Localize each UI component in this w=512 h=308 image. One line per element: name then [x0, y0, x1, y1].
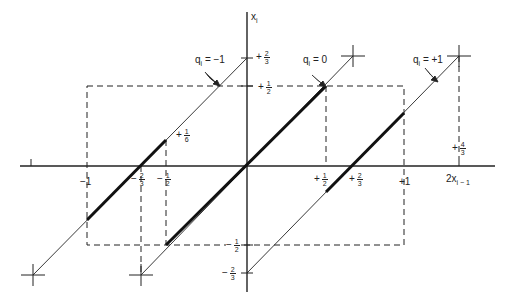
- x-tick-plus-4-3: +43: [452, 141, 466, 156]
- q-value: = 0: [310, 54, 327, 65]
- diagram-canvas: [0, 0, 512, 308]
- y-axis-label: xi: [251, 12, 258, 24]
- label-q-0: qi = 0: [303, 55, 327, 67]
- thick-segment-q-plus-1: [326, 113, 404, 192]
- y-tick-plus-2-3: +23: [256, 50, 270, 65]
- x-tick-plus-2-3: +23: [349, 172, 363, 187]
- thick-segment-q-minus-1: [87, 140, 166, 220]
- x-axis-label: 2xi − 1: [446, 174, 470, 186]
- x-tick-plus-1: +1: [399, 177, 410, 187]
- y-tick-plus-1-2: +12: [256, 80, 274, 95]
- y-tick-plus-1-6: +16: [176, 128, 190, 143]
- label-q-minus-1: qi = −1: [195, 55, 225, 67]
- x-axis-label-main: 2x: [446, 173, 457, 184]
- cross-marker: [447, 45, 471, 67]
- y-tick-minus-1-2: −12: [226, 238, 240, 253]
- label-q-plus-1: qi = +1: [413, 55, 443, 67]
- x-tick-plus-1-2: +12: [314, 172, 328, 187]
- y-axis-label-sub: i: [256, 17, 258, 24]
- x-axis-label-sub: i − 1: [457, 179, 470, 186]
- q-value: = −1: [202, 54, 225, 65]
- label-arrows: [205, 68, 438, 87]
- x-tick-minus-2-3: −23: [131, 172, 145, 187]
- x-tick-minus-1-2: −12: [157, 172, 171, 187]
- q-value: = +1: [420, 54, 443, 65]
- y-tick-minus-2-3: −23: [222, 266, 236, 281]
- x-tick-minus-1: −1: [80, 177, 91, 187]
- line-q-plus-1: [247, 45, 471, 273]
- cross-marker: [21, 264, 45, 286]
